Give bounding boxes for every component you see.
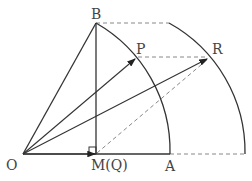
geometry-diagram: B P R O M(Q) A xyxy=(0,0,252,181)
label-b: B xyxy=(91,6,101,22)
label-p: P xyxy=(136,41,145,57)
arc-outer xyxy=(169,23,245,154)
label-r: R xyxy=(212,41,223,57)
segment-ob xyxy=(23,23,96,154)
label-a: A xyxy=(164,158,176,174)
vector-op xyxy=(23,59,135,154)
dashed-m-r xyxy=(97,59,208,153)
vector-or xyxy=(23,59,207,154)
label-o: O xyxy=(6,157,17,173)
arc-ba xyxy=(96,23,170,154)
right-angle-mark xyxy=(89,147,96,154)
label-m: M(Q) xyxy=(91,157,128,173)
